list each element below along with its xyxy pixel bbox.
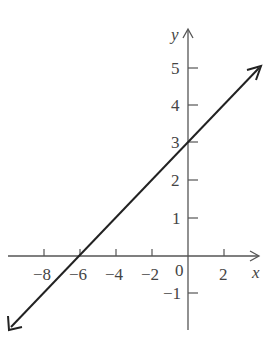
y-tick-label: 4 <box>171 96 180 115</box>
x-tick-label: 2 <box>219 265 228 284</box>
y-tick-label: 1 <box>172 209 181 228</box>
coordinate-plane: −8 −6 −4 −2 0 2 x 5 4 3 2 1 −1 y <box>0 0 264 338</box>
y-tick-label: 2 <box>171 171 180 190</box>
y-tick-label: 5 <box>171 59 180 78</box>
y-tick-label: 3 <box>171 133 180 152</box>
x-axis <box>8 249 259 261</box>
y-axis-label: y <box>169 25 179 44</box>
x-axis-label: x <box>251 263 260 282</box>
plotted-line <box>8 66 261 330</box>
x-tick-label: −4 <box>105 265 124 284</box>
x-tick-label: −2 <box>141 265 159 284</box>
x-tick-label: −6 <box>69 265 87 284</box>
x-tick-label: −8 <box>33 265 51 284</box>
y-tick-label: −1 <box>163 284 181 303</box>
origin-label: 0 <box>175 261 184 280</box>
y-axis <box>183 29 198 330</box>
